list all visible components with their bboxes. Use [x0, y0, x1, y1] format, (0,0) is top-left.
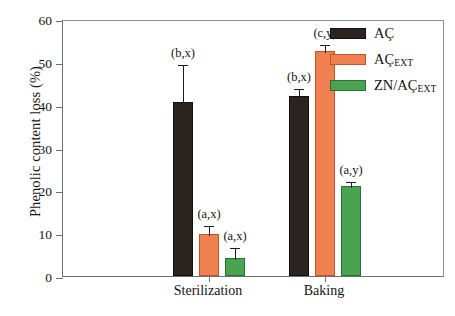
- bar-baking-znaext[interactable]: [341, 186, 361, 276]
- x-group-label-sterilization: Sterilization: [174, 283, 242, 299]
- error-bar-line: [209, 226, 210, 236]
- y-axis-tick: 60: [56, 21, 63, 22]
- legend-item-ac[interactable]: AÇ: [330, 22, 442, 44]
- significance-annotation: (a,y): [339, 163, 362, 178]
- y-axis-tick-label: 0: [45, 270, 52, 286]
- error-bar-cap: [294, 89, 304, 90]
- y-axis-tick-label: 50: [39, 56, 53, 72]
- legend-swatch-icon-ac-ext: [330, 54, 366, 65]
- legend-item-ac-ext[interactable]: AÇEXT: [330, 48, 442, 70]
- error-bar-cap: [178, 65, 188, 66]
- y-axis-tick-label: 40: [39, 99, 53, 115]
- y-axis-tick: 40: [56, 107, 63, 108]
- legend-item-zn-ac-ext[interactable]: ZN/AÇEXT: [330, 74, 442, 96]
- bar-sterilization-znaext[interactable]: [225, 258, 245, 276]
- error-bar-cap: [230, 248, 240, 249]
- error-bar-cap: [204, 226, 214, 227]
- y-axis-tick: 0: [56, 278, 63, 279]
- legend-swatch-icon-ac: [330, 28, 366, 39]
- y-axis-tick-label: 10: [39, 227, 53, 243]
- legend-label-zn-ac-ext: ZN/AÇEXT: [374, 77, 437, 94]
- y-axis-tick: 50: [56, 64, 63, 65]
- legend-swatch-icon-zn-ac-ext: [330, 80, 366, 91]
- error-bar-line: [299, 89, 300, 98]
- legend-label-ac: AÇ: [374, 25, 394, 42]
- x-axis-tick: [325, 276, 326, 282]
- y-axis-tick: 10: [56, 235, 63, 236]
- y-axis-tick-label: 20: [39, 184, 53, 200]
- legend-label-ac-ext: AÇEXT: [374, 51, 413, 68]
- significance-annotation: (a,x): [197, 207, 220, 222]
- legend: AÇ AÇEXT ZN/AÇEXT: [330, 22, 442, 100]
- x-group-label-baking: Baking: [304, 283, 344, 299]
- y-axis-tick: 20: [56, 192, 63, 193]
- y-axis-tick: 30: [56, 150, 63, 151]
- phenolic-content-loss-bar-chart: Phenolic content loss (%) 6050403020100(…: [0, 0, 455, 316]
- error-bar-line: [325, 45, 326, 53]
- bar-baking-a[interactable]: [289, 96, 309, 276]
- significance-annotation: (b,x): [171, 46, 195, 61]
- y-axis-tick-label: 30: [39, 142, 53, 158]
- x-axis-tick: [209, 276, 210, 282]
- error-bar-cap: [320, 45, 330, 46]
- significance-annotation: (b,x): [287, 70, 311, 85]
- error-bar-line: [235, 248, 236, 260]
- error-bar-cap: [346, 182, 356, 183]
- bar-sterilization-a[interactable]: [173, 102, 193, 276]
- error-bar-line: [183, 65, 184, 104]
- bar-sterilization-aext[interactable]: [199, 234, 219, 276]
- significance-annotation: (a,x): [223, 229, 246, 244]
- y-axis-tick-label: 60: [39, 13, 53, 29]
